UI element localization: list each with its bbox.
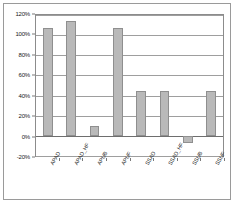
y-tick-label: -20% <box>17 154 30 160</box>
y-tick-label: 120% <box>15 11 30 17</box>
plot-area <box>35 14 224 157</box>
y-tick-label: 100% <box>15 31 30 37</box>
x-tick-mark <box>106 158 107 161</box>
bar-ssuf[interactable] <box>206 91 216 136</box>
chart-outer-frame: 120% 100% 80% 60% 40% 20% 0% -20% <box>3 3 231 200</box>
y-axis: 120% 100% 80% 60% 40% 20% 0% -20% <box>4 14 35 157</box>
x-tick-mark <box>130 158 131 161</box>
y-tick-label: 60% <box>19 72 30 78</box>
x-tick-mark <box>59 158 60 161</box>
x-tick-mark <box>177 158 178 161</box>
bar-apub[interactable] <box>90 126 100 136</box>
y-tick-label: 40% <box>19 93 30 99</box>
bar-ssub[interactable] <box>183 136 193 143</box>
bar-apuf[interactable] <box>113 28 123 136</box>
bar-ssad-hf[interactable] <box>160 91 170 136</box>
bar-apad-hf[interactable] <box>66 21 76 136</box>
x-axis: APAD APAD_HF APUB APUF SSAD SSAD_HF SSUB… <box>35 158 224 202</box>
bars-layer <box>36 15 223 156</box>
bar-ssad[interactable] <box>136 91 146 136</box>
x-tick-mark <box>224 158 225 161</box>
y-tick-label: 80% <box>19 52 30 58</box>
y-tick-label: 0% <box>22 134 30 140</box>
bar-apad[interactable] <box>43 28 53 136</box>
y-tick-label: 20% <box>19 113 30 119</box>
